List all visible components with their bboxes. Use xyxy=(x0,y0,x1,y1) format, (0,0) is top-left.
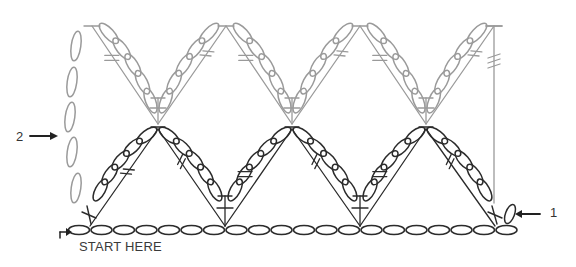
foundation-chain-oval xyxy=(181,225,202,234)
row2-chain-oval xyxy=(230,20,255,46)
row1-chain-oval xyxy=(195,162,217,187)
row1-chain-oval xyxy=(171,135,195,159)
row1-stitch-post xyxy=(292,129,360,226)
row1-chain-oval xyxy=(121,135,145,159)
row2-chain-oval xyxy=(196,20,221,46)
row2-chain-oval xyxy=(275,87,294,115)
row1-chain-oval xyxy=(368,162,389,187)
row-1-label: 1 xyxy=(550,206,557,219)
foundation-chain-oval xyxy=(114,225,135,234)
foundation-chain-oval xyxy=(384,225,405,234)
row2-chain-oval xyxy=(424,86,443,114)
start-here-label: START HERE xyxy=(79,240,162,253)
foundation-chain-oval xyxy=(69,225,90,234)
row2-chain-oval xyxy=(164,68,185,96)
row1-chain-oval xyxy=(157,124,182,147)
row1-chain-oval xyxy=(339,177,359,203)
foundation-chain-oval xyxy=(474,225,495,234)
row2-stitch-post xyxy=(226,26,292,124)
row1-stitch-post xyxy=(360,129,426,226)
row2-chain-oval xyxy=(330,20,355,46)
row2-chain-oval xyxy=(156,86,175,114)
row2-stitch-post xyxy=(426,26,494,124)
row1-chain-oval xyxy=(205,177,225,203)
row2-chain-oval xyxy=(364,20,389,46)
foundation-chain-oval xyxy=(496,225,517,234)
row1-chain-oval xyxy=(329,162,351,187)
row2-chain-oval xyxy=(96,20,121,46)
crochet-diagram: 2 1 START HERE xyxy=(0,0,576,267)
row1-chain-oval xyxy=(291,124,316,147)
foundation-chain-oval xyxy=(316,225,337,234)
row1-chain-oval xyxy=(425,124,451,147)
row-2-arrow-icon xyxy=(50,132,58,140)
foundation-chain-oval xyxy=(204,225,225,234)
row1-chain-oval xyxy=(318,148,341,173)
foundation-chain-oval xyxy=(429,225,450,234)
row2-turning-chain-oval xyxy=(65,66,79,97)
row2-chain-oval xyxy=(400,68,420,96)
row2-chain-oval xyxy=(464,20,489,46)
row2-post-tick xyxy=(200,55,211,56)
row2-chain-oval xyxy=(132,68,152,96)
row1-stitch-post xyxy=(90,129,158,226)
row2-stitch-post xyxy=(92,26,158,124)
row2-post-tick xyxy=(468,55,479,56)
row1-stitch-post xyxy=(426,129,495,226)
row1-post-tick xyxy=(120,173,131,174)
stitch-chart-canvas xyxy=(0,0,576,267)
foundation-chain-oval xyxy=(226,225,247,234)
row2-turning-chain-oval xyxy=(69,30,83,61)
row1-post-tick xyxy=(123,169,134,170)
row2-turning-chain-oval xyxy=(65,136,79,167)
row2-chain-oval xyxy=(298,68,319,96)
row2-stitch-post xyxy=(292,26,360,124)
row1-chain-oval xyxy=(360,177,380,203)
foundation-chain-oval xyxy=(361,225,382,234)
row1-chain-oval xyxy=(474,177,495,203)
row2-post-tick xyxy=(334,55,345,56)
row2-stitch-post xyxy=(158,26,226,124)
row2-chain-oval xyxy=(409,87,428,115)
foundation-chain-oval xyxy=(294,225,315,234)
row2-post-tick xyxy=(337,51,348,52)
row-2-label: 2 xyxy=(16,130,23,143)
row2-chain-oval xyxy=(432,68,453,96)
foundation-chain-oval xyxy=(451,225,472,234)
row1-chain-oval xyxy=(390,135,414,159)
foundation-chain-oval xyxy=(249,225,270,234)
foundation-chain-oval xyxy=(159,225,180,234)
row2-chain-oval xyxy=(266,68,286,96)
row1-chain-oval xyxy=(244,148,267,173)
row1-chain-oval xyxy=(99,162,121,187)
row2-chain-oval xyxy=(141,87,160,115)
foundation-chain-oval xyxy=(339,225,360,234)
row1-chain-oval xyxy=(134,124,159,147)
row1-chain-oval xyxy=(255,135,279,159)
row2-turning-chain-oval xyxy=(69,172,83,203)
foundation-chain-oval xyxy=(136,225,157,234)
row1-chain-oval xyxy=(90,177,110,203)
row1-chain-oval xyxy=(234,162,256,187)
foundation-chain-oval xyxy=(406,225,427,234)
row2-turning-chain-oval xyxy=(63,101,77,132)
foundation-chain-oval xyxy=(271,225,292,234)
foundation-chain-oval xyxy=(91,225,112,234)
row1-chain-oval xyxy=(378,148,401,173)
row1-chain-oval xyxy=(268,124,293,147)
row2-post-tick xyxy=(203,51,214,52)
row1-chain-oval xyxy=(225,177,245,203)
row2-post-tick xyxy=(471,51,482,52)
row1-stitch-post xyxy=(225,129,292,226)
row1-chain-oval xyxy=(452,148,475,173)
row2-chain-oval xyxy=(290,86,309,114)
row1-chain-oval xyxy=(464,162,486,187)
row2-stitch-post xyxy=(360,26,426,124)
row1-stitch-post xyxy=(158,129,225,226)
row1-chain-oval xyxy=(183,148,206,173)
row1-chain-oval xyxy=(402,124,427,147)
